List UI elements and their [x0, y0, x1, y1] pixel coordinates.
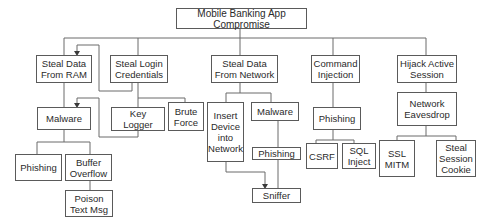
node-command-injection: Command Injection: [311, 55, 360, 83]
node-root: Mobile Banking App Compromise: [176, 8, 307, 29]
node-hijack-active-session: Hijack Active Session: [397, 55, 457, 83]
node-key-logger: Key Logger: [111, 107, 165, 131]
node-steal-login-credentials: Steal Login Credentials: [110, 55, 168, 83]
node-insert-device-into-network: Insert Device into Network: [207, 102, 244, 162]
node-steal-data-from-network: Steal Data From Network: [211, 55, 278, 83]
node-ssl-mitm: SSL MITM: [379, 140, 415, 177]
node-malware-network: Malware: [251, 102, 299, 121]
node-sniffer: Sniffer: [252, 188, 301, 203]
node-network-eavesdrop: Network Eavesdrop: [397, 92, 457, 126]
node-steal-session-cookie: Steal Session Cookie: [436, 140, 476, 177]
node-steal-data-from-ram: Steal Data From RAM: [36, 55, 92, 83]
node-poison-text-msg: Poison Text Msg: [65, 190, 113, 217]
node-phishing-ram: Phishing: [15, 154, 62, 181]
node-brute-force: Brute Force: [168, 102, 204, 131]
node-phishing-network: Phishing: [252, 147, 301, 160]
node-malware-ram: Malware: [37, 107, 91, 130]
node-csrf: CSRF: [306, 143, 338, 169]
node-sql-inject: SQL Inject: [342, 143, 376, 169]
node-phishing-injection: Phishing: [313, 107, 361, 130]
node-buffer-overflow: Buffer Overflow: [65, 154, 112, 181]
